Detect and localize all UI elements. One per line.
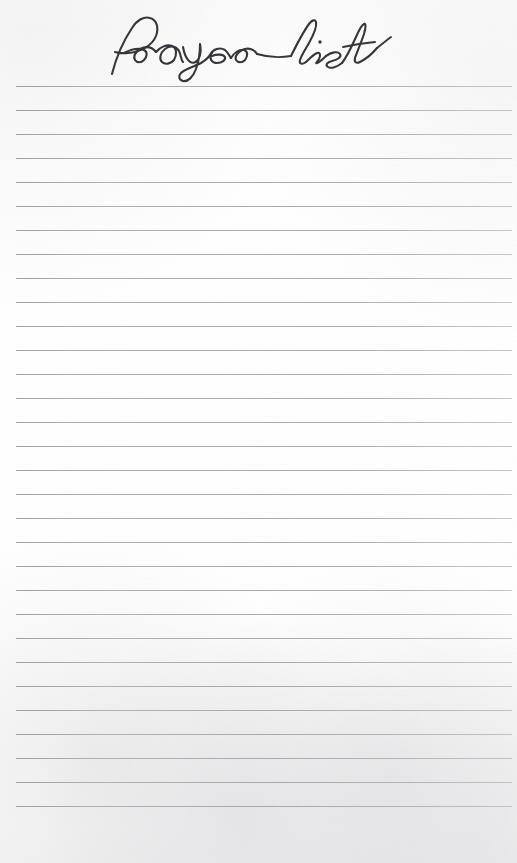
notepad-page: Prayer list [0, 0, 517, 863]
ruled-line [16, 710, 512, 711]
ruled-line [16, 446, 512, 447]
ruled-line [16, 806, 512, 807]
ruled-line [16, 254, 512, 255]
ruled-line [16, 350, 512, 351]
ruled-line [16, 494, 512, 495]
ruled-line [16, 398, 512, 399]
ruled-line [16, 230, 512, 231]
ruled-line [16, 542, 512, 543]
ruled-line [16, 374, 512, 375]
ruled-line [16, 86, 512, 87]
ruled-line [16, 182, 512, 183]
ruled-line [16, 158, 512, 159]
ruled-line [16, 686, 512, 687]
ruled-line [16, 206, 512, 207]
ruled-line [16, 278, 512, 279]
page-title: Prayer list [0, 6, 517, 82]
ruled-lines-group [0, 0, 517, 863]
ruled-line [16, 302, 512, 303]
ruled-line [16, 566, 512, 567]
ruled-line [16, 470, 512, 471]
ruled-line [16, 638, 512, 639]
ruled-line [16, 518, 512, 519]
ruled-line [16, 758, 512, 759]
ruled-line [16, 734, 512, 735]
paper-texture-overlay [0, 0, 517, 863]
ruled-line [16, 326, 512, 327]
ruled-line [16, 782, 512, 783]
ruled-line [16, 662, 512, 663]
ruled-line [16, 110, 512, 111]
ruled-line [16, 614, 512, 615]
ruled-line [16, 422, 512, 423]
page-title-script-art [94, 6, 424, 82]
ruled-line [16, 134, 512, 135]
ruled-line [16, 590, 512, 591]
